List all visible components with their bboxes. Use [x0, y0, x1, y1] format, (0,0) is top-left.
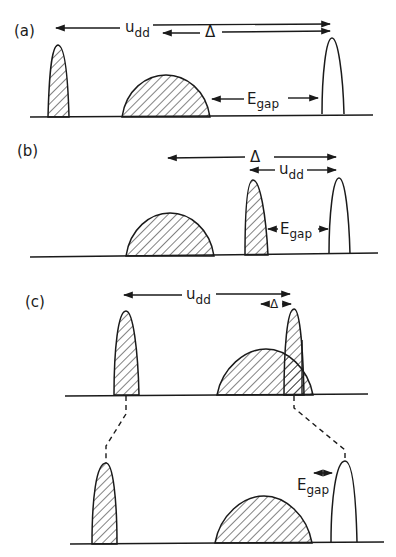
e-gap-label: Egap — [297, 476, 329, 497]
delta-label: Δ — [250, 148, 261, 166]
energy-axis-c-top — [65, 394, 368, 396]
panel-c-bottom: Egap — [70, 461, 384, 544]
e-gap-arrow-a: Egap — [212, 90, 318, 111]
energy-axis-a — [30, 115, 373, 117]
hatched-narrow-peak — [92, 463, 117, 544]
panel-label-a: (a) — [14, 22, 35, 40]
open-narrow-peak — [331, 461, 357, 542]
panel-b: (b) Δ udd Egap — [17, 142, 378, 257]
panel-c-top: (c) udd Δ — [25, 285, 368, 396]
u-dd-label: udd — [279, 160, 304, 182]
e-gap-arrow-b: Egap — [268, 220, 328, 241]
panel-a: (a) udd Δ Egap — [14, 18, 373, 117]
delta-label: Δ — [270, 297, 279, 311]
open-narrow-peak — [322, 38, 344, 114]
delta-label: Δ — [205, 23, 216, 41]
panel-label-c: (c) — [25, 293, 45, 311]
hatched-narrow-peak — [114, 311, 139, 395]
delta-arrow-c: Δ — [261, 297, 291, 311]
u-dd-label: udd — [125, 18, 150, 40]
u-dd-arrow-a: udd — [56, 18, 330, 40]
density-of-states-diagram: (a) udd Δ Egap (b) Δ — [0, 0, 396, 557]
hatched-broad-band — [122, 75, 210, 117]
u-dd-label: udd — [186, 285, 211, 307]
open-narrow-peak — [329, 178, 350, 254]
hatched-broad-band — [126, 213, 214, 256]
e-gap-label: Egap — [247, 90, 279, 111]
u-dd-arrow-b: udd — [250, 160, 336, 182]
e-gap-label: Egap — [280, 220, 312, 241]
hatched-broad-band — [215, 496, 312, 543]
dashed-connectors — [106, 396, 345, 463]
connector-right — [294, 396, 345, 461]
e-gap-arrow-c: Egap — [297, 473, 332, 497]
delta-arrow-b: Δ — [168, 148, 336, 166]
hatched-narrow-peak — [48, 45, 69, 117]
delta-arrow-a: Δ — [163, 23, 330, 41]
hatched-narrow-peak — [245, 180, 268, 255]
panel-label-b: (b) — [17, 142, 38, 160]
connector-left — [106, 396, 126, 463]
hatched-narrow-peak — [284, 309, 304, 395]
